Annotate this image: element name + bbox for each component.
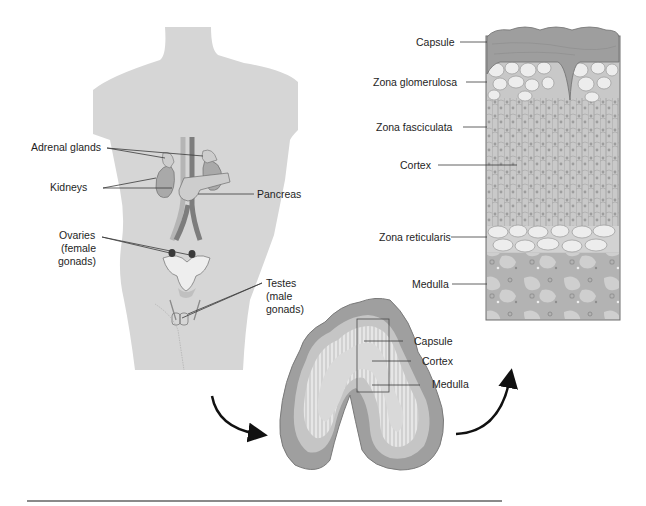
arrow-to-section (212, 396, 258, 434)
label-testes-line3: gonads) (266, 303, 304, 316)
label-zona-glomerulosa: Zona glomerulosa (373, 76, 457, 89)
label-histology-capsule: Capsule (416, 36, 455, 49)
label-ovaries-line2: (female (61, 242, 96, 255)
adrenal-cross-section (280, 298, 444, 470)
histology-column (486, 27, 620, 320)
label-zona-reticularis: Zona reticularis (379, 231, 451, 244)
label-adrenal-glands: Adrenal glands (31, 141, 101, 154)
zona-fasciculata (487, 96, 619, 226)
zona-glomerulosa (487, 62, 619, 102)
label-testes-line2: (male (266, 290, 292, 303)
label-pancreas: Pancreas (257, 188, 301, 201)
label-section-cortex: Cortex (422, 355, 453, 368)
label-histology-medulla: Medulla (412, 278, 449, 291)
bottom-rule (27, 500, 502, 502)
label-testes-line1: Testes (266, 277, 296, 290)
label-ovaries-line3: gonads) (58, 255, 96, 268)
zona-reticularis (487, 225, 619, 252)
medulla (487, 253, 619, 319)
label-ovaries-line1: Ovaries (59, 229, 95, 242)
label-zona-fasciculata: Zona fasciculata (376, 121, 452, 134)
label-kidneys: Kidneys (50, 181, 87, 194)
diagram-canvas (0, 0, 646, 506)
label-section-medulla: Medulla (432, 378, 469, 391)
label-section-capsule: Capsule (414, 335, 453, 348)
label-histology-cortex: Cortex (400, 159, 431, 172)
